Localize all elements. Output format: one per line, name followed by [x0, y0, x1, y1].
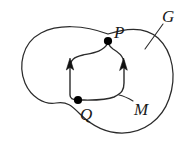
- curve-label-leader-line: [119, 95, 133, 101]
- point-marker-Q: [74, 96, 82, 104]
- diagram-canvas: P Q M G: [0, 0, 187, 143]
- label-P: P: [113, 23, 124, 42]
- label-G: G: [162, 7, 174, 26]
- label-M: M: [133, 100, 149, 119]
- label-Q: Q: [80, 105, 92, 124]
- region-label-leader-line: [145, 24, 163, 49]
- region-boundary-G: [22, 27, 173, 133]
- curve-M: [70, 43, 124, 100]
- point-marker-P: [104, 37, 112, 45]
- diagram-svg: P Q M G: [0, 0, 187, 143]
